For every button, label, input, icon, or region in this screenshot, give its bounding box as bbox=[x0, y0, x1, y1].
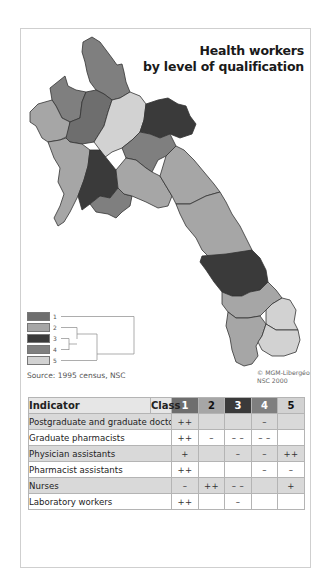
indicator-table: Indicator Class 1 2 3 4 5 Postgraduate a… bbox=[28, 397, 305, 510]
cell-class-5: + bbox=[278, 478, 305, 494]
header-class: Class bbox=[151, 398, 172, 414]
copyright-line-1: © MGM-Libergéo bbox=[257, 369, 310, 377]
cell-class-4: – – bbox=[252, 430, 278, 446]
table-row: Graduate pharmacists ++ – – – – – bbox=[29, 430, 305, 446]
legend-swatch-2 bbox=[27, 323, 50, 332]
row-indicator: Pharmacist assistants bbox=[29, 462, 172, 478]
map-legend: 1 2 3 4 5 bbox=[27, 312, 137, 372]
cell-class-1: – bbox=[172, 478, 199, 494]
row-indicator: Laboratory workers bbox=[29, 494, 172, 510]
cell-class-2: – bbox=[199, 430, 225, 446]
table-row: Pharmacist assistants ++ – – bbox=[29, 462, 305, 478]
cell-class-1: ++ bbox=[172, 430, 199, 446]
cell-class-2 bbox=[199, 446, 225, 462]
dendrogram-icon bbox=[57, 312, 137, 368]
source-note: Source: 1995 census, NSC bbox=[27, 371, 126, 380]
legend-swatch-4 bbox=[27, 345, 50, 354]
cell-class-4: – bbox=[252, 446, 278, 462]
province-north bbox=[82, 37, 130, 100]
cell-class-4: – bbox=[252, 414, 278, 430]
copyright-note: © MGM-Libergéo NSC 2000 bbox=[257, 369, 310, 385]
row-indicator: Graduate pharmacists bbox=[29, 430, 172, 446]
table-header-row: Indicator Class 1 2 3 4 5 bbox=[29, 398, 305, 414]
row-indicator: Physician assistants bbox=[29, 446, 172, 462]
cell-class-3: – bbox=[225, 446, 252, 462]
table-row: Nurses – ++ – – + bbox=[29, 478, 305, 494]
cell-class-5 bbox=[278, 414, 305, 430]
cell-class-5: ++ bbox=[278, 446, 305, 462]
table-row: Laboratory workers ++ – bbox=[29, 494, 305, 510]
table-row: Postgraduate and graduate doctors ++ – bbox=[29, 414, 305, 430]
cell-class-5 bbox=[278, 494, 305, 510]
cell-class-3: – – bbox=[225, 478, 252, 494]
cell-class-4: – bbox=[252, 462, 278, 478]
row-indicator: Nurses bbox=[29, 478, 172, 494]
cell-class-3: – bbox=[225, 494, 252, 510]
cell-class-1: ++ bbox=[172, 462, 199, 478]
cell-class-3: – – bbox=[225, 430, 252, 446]
header-class-3: 3 bbox=[225, 398, 252, 414]
header-indicator: Indicator bbox=[29, 398, 151, 414]
cell-class-1: ++ bbox=[172, 494, 199, 510]
cell-class-3 bbox=[225, 462, 252, 478]
table-row: Physician assistants + – – ++ bbox=[29, 446, 305, 462]
cell-class-5: – bbox=[278, 462, 305, 478]
cell-class-3 bbox=[225, 414, 252, 430]
cell-class-1: + bbox=[172, 446, 199, 462]
cell-class-5 bbox=[278, 430, 305, 446]
cell-class-1: ++ bbox=[172, 414, 199, 430]
cell-class-2 bbox=[199, 462, 225, 478]
cell-class-2: ++ bbox=[199, 478, 225, 494]
cell-class-2 bbox=[199, 494, 225, 510]
cell-class-2 bbox=[199, 414, 225, 430]
legend-swatch-3 bbox=[27, 334, 50, 343]
copyright-line-2: NSC 2000 bbox=[257, 377, 310, 385]
cell-class-4 bbox=[252, 478, 278, 494]
header-class-2: 2 bbox=[199, 398, 225, 414]
row-indicator: Postgraduate and graduate doctors bbox=[29, 414, 172, 430]
legend-swatch-1 bbox=[27, 312, 50, 321]
province-savannakhet bbox=[200, 250, 268, 296]
legend-swatch-5 bbox=[27, 356, 50, 365]
header-class-4: 4 bbox=[252, 398, 278, 414]
cell-class-4 bbox=[252, 494, 278, 510]
province-northeast bbox=[140, 98, 196, 138]
header-class-5: 5 bbox=[278, 398, 305, 414]
